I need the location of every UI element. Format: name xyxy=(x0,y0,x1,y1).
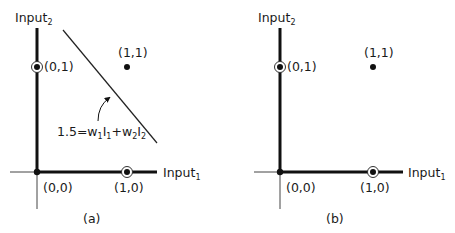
label-1-0: (1,0) xyxy=(114,180,144,195)
panel-a: Input2 Input1 1.5=w1I1+w2I2 (0,0) (1,0) … xyxy=(10,10,200,226)
x-axis-label: Input1 xyxy=(163,165,200,182)
point-0-0 xyxy=(277,169,283,175)
x-axis-label: Input1 xyxy=(408,165,445,182)
label-1-1: (1,1) xyxy=(364,45,394,60)
point-0-1-circled xyxy=(32,62,43,73)
label-1-0: (1,0) xyxy=(360,180,390,195)
point-1-0-circled xyxy=(368,167,379,178)
caption-a: (a) xyxy=(83,211,100,226)
point-1-1 xyxy=(124,64,130,70)
caption-b: (b) xyxy=(326,211,344,226)
y-axis-label: Input2 xyxy=(258,10,295,27)
point-1-0-circled xyxy=(122,167,133,178)
label-1-1: (1,1) xyxy=(118,45,148,60)
arrow-icon xyxy=(98,98,109,121)
figure-canvas: Input2 Input1 1.5=w1I1+w2I2 (0,0) (1,0) … xyxy=(0,0,455,233)
label-0-0: (0,0) xyxy=(286,180,316,195)
point-0-1-circled xyxy=(275,62,286,73)
point-0-0 xyxy=(34,169,40,175)
panel-b: Input2 Input1 (0,0) (1,0) (0,1) (1,1) (b… xyxy=(254,10,445,226)
decision-boundary-equation: 1.5=w1I1+w2I2 xyxy=(57,124,146,141)
y-axis-label: Input2 xyxy=(15,10,52,27)
label-0-1: (0,1) xyxy=(287,59,317,74)
label-0-1: (0,1) xyxy=(44,59,74,74)
point-1-1 xyxy=(370,64,376,70)
label-0-0: (0,0) xyxy=(43,180,73,195)
